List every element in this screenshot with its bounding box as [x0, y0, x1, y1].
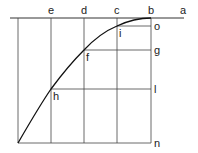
label-n: n	[154, 137, 160, 149]
label-b: b	[148, 4, 154, 16]
label-h: h	[53, 90, 59, 102]
curve	[18, 18, 151, 143]
label-f: f	[86, 51, 90, 63]
label-i: i	[119, 27, 121, 39]
diagram-canvas: e d c b a o g l n i f h	[0, 0, 198, 153]
label-l: l	[154, 83, 156, 95]
label-a: a	[180, 4, 187, 16]
label-o: o	[154, 20, 160, 32]
label-d: d	[81, 4, 87, 16]
label-e: e	[48, 4, 54, 16]
label-c: c	[114, 4, 120, 16]
label-g: g	[154, 44, 160, 56]
